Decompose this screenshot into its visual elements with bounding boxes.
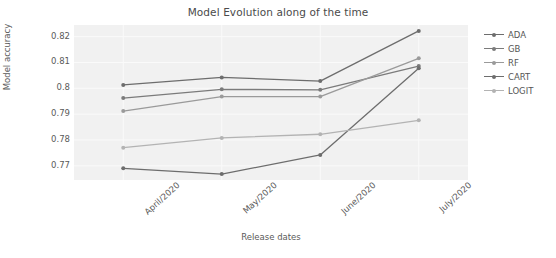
y-tick-label: 0.82: [4, 31, 70, 41]
data-point-gb: [318, 88, 322, 92]
y-tick-label: 0.77: [4, 160, 70, 170]
data-point-cart: [220, 172, 224, 176]
data-point-ada: [121, 83, 125, 87]
data-point-gb: [121, 96, 125, 100]
data-point-rf: [318, 95, 322, 99]
x-axis-label: Release dates: [74, 232, 468, 242]
legend-marker-icon: [492, 61, 496, 65]
chart-title: Model Evolution along of the time: [0, 6, 556, 18]
x-tick-label: July/2020: [437, 180, 473, 214]
legend-label: LOGIT: [508, 86, 533, 96]
series-line-rf: [123, 58, 419, 111]
legend-label: CART: [508, 72, 530, 82]
x-tick-label: April/2020: [143, 180, 182, 217]
legend-swatch-icon: [484, 44, 504, 54]
legend-label: ADA: [508, 30, 526, 40]
data-point-logit: [121, 146, 125, 150]
data-point-rf: [417, 56, 421, 60]
legend-marker-icon: [492, 75, 496, 79]
data-point-ada: [417, 29, 421, 33]
legend-swatch-icon: [484, 72, 504, 82]
y-tick-label: 0.79: [4, 108, 70, 118]
legend-marker-icon: [492, 47, 496, 51]
legend-item-rf[interactable]: RF: [484, 56, 556, 69]
y-tick-label: 0.8: [4, 82, 70, 92]
x-tick-label: June/2020: [339, 180, 378, 216]
legend-item-logit[interactable]: LOGIT: [484, 84, 556, 97]
y-tick-label: 0.78: [4, 134, 70, 144]
legend-label: GB: [508, 44, 520, 54]
data-point-logit: [220, 136, 224, 140]
data-point-ada: [220, 75, 224, 79]
data-point-logit: [417, 118, 421, 122]
data-point-rf: [220, 95, 224, 99]
y-axis-tick-labels: 0.820.810.80.790.780.77: [0, 25, 70, 180]
y-tick-label: 0.81: [4, 56, 70, 66]
legend-swatch-icon: [484, 86, 504, 96]
data-point-gb: [220, 87, 224, 91]
x-axis-tick-labels: April/2020May/2020June/2020July/2020: [74, 180, 468, 230]
data-point-cart: [121, 166, 125, 170]
legend-item-cart[interactable]: CART: [484, 70, 556, 83]
series-line-logit: [123, 120, 419, 147]
legend-swatch-icon: [484, 30, 504, 40]
data-point-cart: [417, 66, 421, 70]
plot-area: [74, 25, 468, 180]
data-point-rf: [121, 109, 125, 113]
chart-legend: ADAGBRFCARTLOGIT: [484, 28, 556, 98]
data-point-ada: [318, 79, 322, 83]
data-point-logit: [318, 132, 322, 136]
x-tick-label: May/2020: [241, 180, 279, 216]
legend-item-gb[interactable]: GB: [484, 42, 556, 55]
legend-marker-icon: [492, 33, 496, 37]
legend-item-ada[interactable]: ADA: [484, 28, 556, 41]
legend-marker-icon: [492, 89, 496, 93]
legend-swatch-icon: [484, 58, 504, 68]
series-line-cart: [123, 68, 419, 174]
data-point-cart: [318, 153, 322, 157]
legend-label: RF: [508, 58, 519, 68]
series-lines: [74, 25, 468, 180]
chart-figure: Model Evolution along of the time Model …: [0, 0, 556, 258]
